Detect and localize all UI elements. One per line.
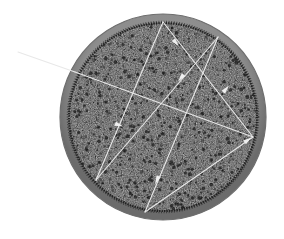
figure-root: Light ray multiple reflection inside a c… — [0, 0, 284, 239]
ray-reflection-diagram — [0, 0, 284, 239]
